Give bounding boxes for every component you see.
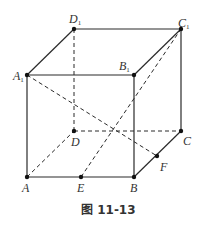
point-A <box>25 175 29 179</box>
label-C: C <box>183 134 192 148</box>
point-C <box>179 129 183 133</box>
edge-D1A1 <box>27 29 74 75</box>
figure-caption: 图 11-13 <box>81 203 136 217</box>
segment-A1F <box>27 75 157 156</box>
label-D: D <box>70 135 80 149</box>
label-A: A <box>21 181 30 195</box>
point-A1 <box>25 73 29 77</box>
label-B1: B1 <box>119 59 130 74</box>
point-B1 <box>132 73 136 77</box>
point-D <box>72 129 76 133</box>
label-A1: A1 <box>12 69 24 84</box>
cube-diagram: A E B F C D A1 B1 C1 D1 图 11-13 <box>0 0 202 228</box>
label-B: B <box>130 181 138 195</box>
point-E <box>79 175 83 179</box>
point-F <box>155 154 159 158</box>
point-D1 <box>72 27 76 31</box>
label-C1: C1 <box>178 16 190 31</box>
label-D1: D1 <box>68 12 82 27</box>
edge-B1C1 <box>134 29 181 75</box>
label-E: E <box>76 181 85 195</box>
label-F: F <box>159 160 168 174</box>
segment-EC1 <box>81 29 181 177</box>
edge-AD <box>27 131 74 177</box>
point-B <box>132 175 136 179</box>
